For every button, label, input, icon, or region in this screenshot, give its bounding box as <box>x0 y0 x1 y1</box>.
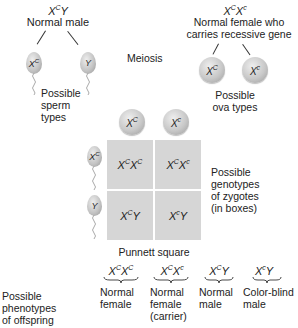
phenotypes-label: Possible phenotypes of offspring <box>2 290 82 326</box>
punnett-row-header-y-icon: Y <box>87 195 102 216</box>
punnett-col-header-xlower-c-icon: Xc <box>163 109 189 135</box>
phenotype-colorblind-male: XcY Color-blind male <box>243 264 298 310</box>
punnett-cell: XCY <box>107 191 153 240</box>
punnett-row-header-xc-icon: XC <box>87 146 102 167</box>
brace-icon <box>150 277 192 283</box>
sperm-tail-icon <box>91 215 97 241</box>
zygote-genotypes-label: Possible genotypes of zygotes (in boxes) <box>211 166 296 214</box>
sperm-y-icon: Y <box>80 52 96 74</box>
brace-icon <box>243 277 293 283</box>
female-branch-line-left <box>212 43 219 54</box>
punnett-cell: XCXC <box>107 140 153 189</box>
brace-icon <box>100 277 142 283</box>
punnett-cell: XcY <box>155 191 201 240</box>
ovum-xlower-c-icon: Xc <box>242 57 268 83</box>
meiosis-label: Meiosis <box>127 52 163 64</box>
phenotype-carrier-female: XCXc Normal female (carrier) <box>150 264 194 322</box>
male-branch-line-right <box>67 31 78 45</box>
sperm-tail-icon <box>91 166 97 192</box>
brace-icon <box>199 277 239 283</box>
female-label: Normal female who carries recessive gene <box>180 16 298 40</box>
female-branch-line-right <box>242 44 251 55</box>
sperm-tail-icon <box>31 73 37 95</box>
ovum-xc-icon: XC <box>199 57 225 83</box>
sperm-types-label: Possible sperm types <box>41 87 101 123</box>
phenotype-normal-female: XCXC Normal female <box>100 264 142 310</box>
punnett-square-title: Punnett square <box>107 246 201 258</box>
punnett-cell: XCXc <box>155 140 201 189</box>
punnett-col-header-xc-icon: XC <box>119 109 145 135</box>
phenotype-normal-male: XCY Normal male <box>199 264 239 310</box>
ova-types-label: Possible ova types <box>200 89 270 113</box>
sperm-xc-icon: XC <box>26 52 42 74</box>
male-branch-line-left <box>36 30 46 44</box>
male-label: Normal male <box>20 16 96 28</box>
